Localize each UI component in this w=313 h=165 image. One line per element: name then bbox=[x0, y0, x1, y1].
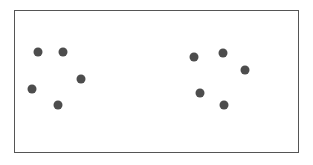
data-point bbox=[196, 89, 205, 98]
data-point bbox=[220, 101, 229, 110]
data-point bbox=[59, 48, 68, 57]
data-point bbox=[28, 85, 37, 94]
scatter-plot-canvas bbox=[0, 0, 313, 165]
data-point bbox=[241, 66, 250, 75]
data-point bbox=[34, 48, 43, 57]
data-point bbox=[77, 75, 86, 84]
scatter-plot-figure bbox=[0, 0, 313, 165]
plot-frame-border bbox=[15, 11, 299, 153]
data-point bbox=[190, 53, 199, 62]
data-point bbox=[219, 49, 228, 58]
data-point bbox=[54, 101, 63, 110]
